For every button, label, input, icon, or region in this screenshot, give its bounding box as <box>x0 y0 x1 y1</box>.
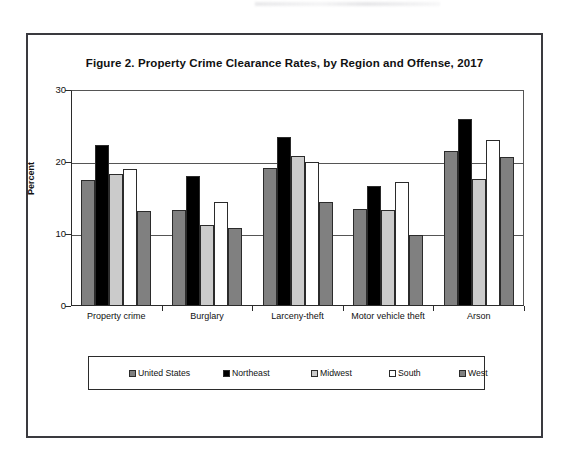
legend-label: West <box>468 368 488 378</box>
bar <box>409 235 423 306</box>
x-tick-mark <box>252 306 253 311</box>
legend-item-northeast: Northeast <box>223 368 270 378</box>
legend-item-midwest: Midwest <box>311 368 352 378</box>
bar <box>458 119 472 306</box>
bar <box>305 162 319 306</box>
bar <box>172 210 186 306</box>
legend-swatch-icon <box>129 370 136 377</box>
bar <box>228 228 242 306</box>
bar <box>486 140 500 306</box>
bar <box>81 180 95 306</box>
y-tick-label-30: 30 <box>38 84 66 95</box>
bar <box>319 202 333 306</box>
bar <box>214 202 228 306</box>
bar <box>500 157 514 306</box>
bar <box>291 156 305 306</box>
legend-label: United States <box>138 368 190 378</box>
legend-label: South <box>398 368 421 378</box>
legend-swatch-icon <box>459 370 466 377</box>
bar <box>200 225 214 306</box>
chart-legend: United StatesNortheastMidwestSouthWest <box>88 356 485 390</box>
y-tick-mark-0 <box>65 306 71 307</box>
y-tick-label-10: 10 <box>38 228 66 239</box>
bar <box>137 211 151 306</box>
bar <box>395 182 409 306</box>
y-tick-mark-10 <box>65 234 71 235</box>
category-label-burglary: Burglary <box>190 311 224 321</box>
y-tick-mark-20 <box>65 162 71 163</box>
category-label-arson: Arson <box>467 311 491 321</box>
bar <box>186 176 200 306</box>
legend-item-south: South <box>389 368 421 378</box>
bar <box>472 179 486 306</box>
bar <box>123 169 137 306</box>
bar <box>277 137 291 306</box>
bar <box>444 151 458 306</box>
scan-artifact <box>255 2 440 6</box>
category-label-motor-vehicle-theft: Motor vehicle theft <box>351 311 425 321</box>
legend-swatch-icon <box>311 370 318 377</box>
y-tick-label-0: 0 <box>38 300 66 311</box>
legend-swatch-icon <box>223 370 230 377</box>
legend-item-west: West <box>459 368 488 378</box>
chart-title: Figure 2. Property Crime Clearance Rates… <box>28 57 541 69</box>
x-tick-mark <box>343 306 344 311</box>
y-tick-label-20: 20 <box>38 156 66 167</box>
y-tick-mark-30 <box>65 90 71 91</box>
legend-item-united-states: United States <box>129 368 190 378</box>
category-label-larceny-theft: Larceny-theft <box>271 311 324 321</box>
bar <box>95 145 109 306</box>
legend-swatch-icon <box>389 370 396 377</box>
bar <box>367 186 381 306</box>
x-tick-mark <box>433 306 434 311</box>
bar <box>353 209 367 306</box>
x-tick-mark <box>162 306 163 311</box>
y-axis-title: Percent <box>26 162 36 195</box>
legend-label: Northeast <box>232 368 270 378</box>
bar <box>263 168 277 306</box>
bar <box>381 210 395 306</box>
bar <box>109 174 123 306</box>
legend-label: Midwest <box>320 368 352 378</box>
x-tick-mark <box>524 306 525 311</box>
category-label-property-crime: Property crime <box>87 311 146 321</box>
